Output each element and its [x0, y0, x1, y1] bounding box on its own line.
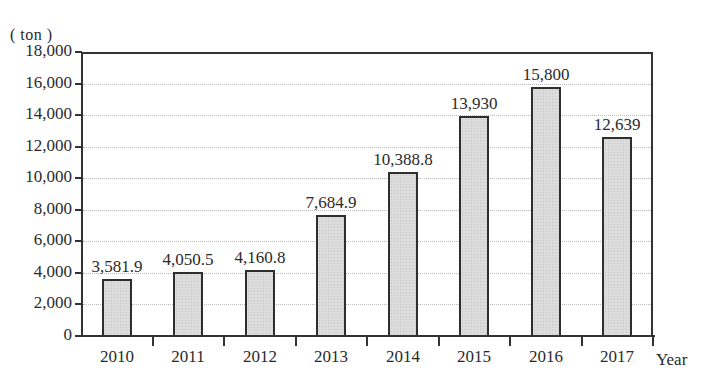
x-tick	[581, 336, 583, 346]
gridline	[83, 304, 651, 305]
bar-value-label: 12,639	[567, 116, 667, 134]
x-tick-label: 2011	[158, 347, 218, 367]
y-tick	[75, 146, 82, 148]
y-tick-label: 0	[2, 326, 72, 344]
bar-2012	[245, 270, 275, 336]
y-tick-label: 4,000	[2, 263, 72, 281]
y-tick-label: 6,000	[2, 231, 72, 249]
x-tick	[652, 336, 654, 346]
x-tick-label: 2010	[87, 347, 147, 367]
gridline	[83, 147, 651, 148]
x-tick	[509, 336, 511, 346]
x-tick-label: 2013	[301, 347, 361, 367]
y-tick	[75, 114, 82, 116]
y-tick-label: 10,000	[2, 168, 72, 186]
bar-value-label: 7,684.9	[281, 194, 381, 212]
x-tick	[366, 336, 368, 346]
bar-value-label: 13,930	[424, 95, 524, 113]
gridline	[83, 115, 651, 116]
x-tick-label: 2016	[516, 347, 576, 367]
x-tick	[152, 336, 154, 346]
y-tick	[75, 303, 82, 305]
y-tick	[75, 240, 82, 242]
bar-2013	[316, 215, 346, 336]
y-tick	[75, 177, 82, 179]
y-tick-label: 2,000	[2, 294, 72, 312]
gridline	[83, 84, 651, 85]
bar-value-label: 4,160.8	[210, 249, 310, 267]
bar-2010	[102, 279, 132, 336]
bar-2017	[602, 137, 632, 336]
bar-2016	[531, 87, 561, 336]
y-tick-label: 16,000	[2, 74, 72, 92]
bar-value-label: 15,800	[496, 66, 596, 84]
bar-2011	[173, 272, 203, 336]
y-tick-label: 12,000	[2, 137, 72, 155]
gridline	[83, 241, 651, 242]
y-tick-label: 14,000	[2, 105, 72, 123]
x-tick	[295, 336, 297, 346]
x-tick-label: 2012	[230, 347, 290, 367]
bar-2014	[388, 172, 418, 336]
bar-2015	[459, 116, 489, 336]
bar-chart: ( ton ) 02,0004,0006,0008,00010,00012,00…	[0, 0, 704, 382]
x-axis-title: Year	[656, 350, 687, 370]
bar-value-label: 10,388.8	[353, 151, 453, 169]
gridline	[83, 273, 651, 274]
x-tick	[223, 336, 225, 346]
y-tick	[75, 51, 82, 53]
x-tick-label: 2014	[373, 347, 433, 367]
x-tick	[438, 336, 440, 346]
x-tick-label: 2017	[587, 347, 647, 367]
y-tick	[75, 83, 82, 85]
y-tick-label: 18,000	[2, 42, 72, 60]
gridline	[83, 178, 651, 179]
y-tick	[75, 209, 82, 211]
x-axis-line	[75, 335, 655, 337]
y-tick-label: 8,000	[2, 200, 72, 218]
x-tick-label: 2015	[444, 347, 504, 367]
